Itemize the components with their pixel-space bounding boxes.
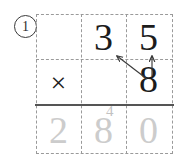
cell-r3c1-answer-digit[interactable]: 2 — [36, 105, 81, 153]
multiplication-grid: 3 5 × 8 2 8 0 — [36, 14, 173, 154]
cell-r1c2-digit-three[interactable]: 3 — [81, 14, 126, 59]
cell-r3c3-answer-digit[interactable]: 0 — [126, 105, 171, 153]
worksheet-problem: 1 3 5 × 8 2 8 0 4 — [0, 0, 176, 157]
cell-r1c3-digit-five[interactable]: 5 — [126, 14, 171, 59]
cell-r2c3-digit-eight[interactable]: 8 — [126, 59, 171, 104]
carry-digit-superscript: 4 — [106, 104, 114, 119]
cell-r1c1[interactable] — [36, 14, 81, 59]
cell-r3c2-answer-digit[interactable]: 8 — [81, 105, 126, 153]
cell-r2c1-multiply-operator[interactable]: × — [36, 59, 81, 104]
cell-r2c2[interactable] — [81, 59, 126, 104]
problem-number-badge: 1 — [14, 15, 37, 38]
